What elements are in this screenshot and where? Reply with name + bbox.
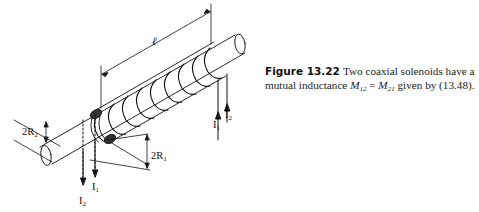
i1-far-label: I1 <box>213 119 221 132</box>
outer-solenoid <box>89 42 226 145</box>
i1-near-label: I1 <box>92 181 100 194</box>
m21-symbol: M21 <box>378 79 394 91</box>
m12-symbol: M12 <box>350 79 366 91</box>
two-r2-label: 2R2 <box>22 126 38 139</box>
caption-text-2: given by (13.48). <box>395 79 475 91</box>
coaxial-solenoids-diagram: ℓ 2R2 2R1 I1 I2 I1 I2 <box>0 0 260 212</box>
figure-caption: Figure 13.22Two coaxial solenoids have a… <box>265 65 477 92</box>
i2-near-label: I2 <box>79 195 87 208</box>
length-dimension <box>101 4 211 108</box>
length-label: ℓ <box>152 35 157 47</box>
r2-dimension <box>14 120 60 162</box>
figure-number: Figure 13.22 <box>265 65 340 77</box>
inner-solenoid <box>39 33 246 166</box>
two-r1-label: 2R1 <box>151 150 167 163</box>
r1-dimension <box>90 134 150 170</box>
equals-sign: = <box>366 79 378 91</box>
